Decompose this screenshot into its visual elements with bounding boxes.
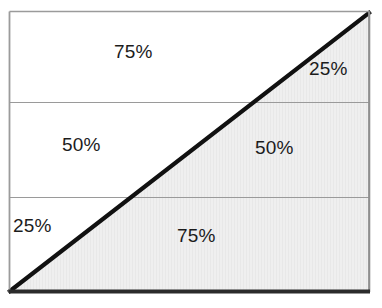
label-middle-left-percentage: 50%: [62, 134, 101, 156]
label-middle-right-percentage: 50%: [255, 137, 294, 159]
label-top-right-percentage: 25%: [309, 58, 348, 80]
percentage-diagram: 75% 25% 50% 50% 25% 75%: [0, 0, 382, 308]
label-top-left-percentage: 75%: [114, 41, 153, 63]
label-bottom-left-percentage: 25%: [13, 215, 52, 237]
diagram-canvas: [0, 0, 382, 308]
label-bottom-right-percentage: 75%: [177, 225, 216, 247]
